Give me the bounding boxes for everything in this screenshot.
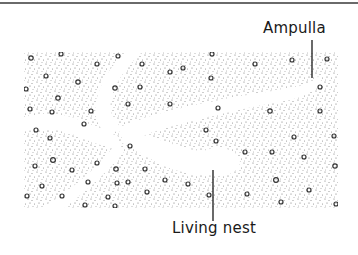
label-living-nest: Living nest (172, 219, 256, 237)
label-ampulla: Ampulla (263, 19, 326, 37)
soil-cross-section (0, 0, 358, 255)
